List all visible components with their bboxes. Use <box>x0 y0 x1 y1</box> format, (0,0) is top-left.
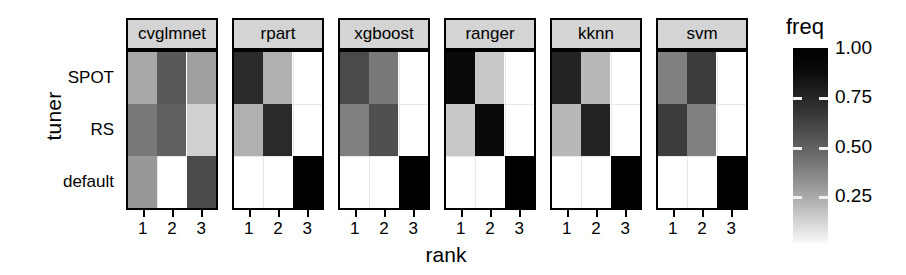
x-tick-label-2: 2 <box>584 219 608 239</box>
x-tick-label-1: 1 <box>661 219 685 239</box>
heatmap-cell <box>234 104 263 156</box>
heatmap-cell <box>475 104 504 156</box>
heatmap-cell <box>581 52 610 104</box>
legend-title: freq <box>786 14 824 40</box>
x-tick-label-2: 2 <box>478 219 502 239</box>
x-tick-label-1: 1 <box>449 219 473 239</box>
x-tick-label-2: 2 <box>372 219 396 239</box>
heatmap-cell <box>581 104 610 156</box>
facet-strip-label-ranger: ranger <box>444 18 536 50</box>
heatmap-cell <box>446 104 475 156</box>
x-tick-label-3: 3 <box>507 219 531 239</box>
plot-area-svm <box>656 50 748 210</box>
heatmap-cell <box>687 104 716 156</box>
x-tick-label-2: 2 <box>160 219 184 239</box>
x-tick-mark <box>172 210 174 217</box>
x-tick-mark <box>702 210 704 217</box>
x-tick-mark <box>567 210 569 217</box>
x-tick-label-3: 3 <box>401 219 425 239</box>
x-tick-label-3: 3 <box>613 219 637 239</box>
heatmap-cell <box>687 52 716 104</box>
legend-tick-mark <box>793 97 802 100</box>
facet-panel-svm: svm <box>656 18 748 210</box>
x-tick-label-2: 2 <box>266 219 290 239</box>
facet-strip-label-rpart: rpart <box>232 18 324 50</box>
facet-panel-xgboost: xgboost <box>338 18 430 210</box>
heatmap-figure: tuner SPOTRSdefault 123cvglmnet123rpart1… <box>0 0 906 275</box>
x-tick-mark <box>384 210 386 217</box>
x-tick-mark <box>249 210 251 217</box>
facet-panel-kknn: kknn <box>550 18 642 210</box>
x-tick-label-1: 1 <box>555 219 579 239</box>
heatmap-cell <box>611 156 640 208</box>
x-tick-mark <box>596 210 598 217</box>
heatmap-cell <box>293 156 322 208</box>
heatmap-cell <box>369 104 398 156</box>
x-tick-label-1: 1 <box>131 219 155 239</box>
x-tick-mark <box>278 210 280 217</box>
heatmap-cell <box>340 104 369 156</box>
heatmap-cell <box>340 52 369 104</box>
facet-panel-rpart: rpart <box>232 18 324 210</box>
x-tick-mark <box>355 210 357 217</box>
facet-strip-label-xgboost: xgboost <box>338 18 430 50</box>
heatmap-cell <box>128 156 157 208</box>
plot-area-kknn <box>550 50 642 210</box>
x-tick-mark <box>519 210 521 217</box>
heatmap-cell <box>128 52 157 104</box>
facet-strip-label-kknn: kknn <box>550 18 642 50</box>
legend: freq 1.000.750.500.25 <box>786 14 906 264</box>
heatmap-cell <box>187 104 216 156</box>
heatmap-cell <box>187 52 216 104</box>
heatmap-cell <box>552 104 581 156</box>
x-tick-mark <box>307 210 309 217</box>
facet-panel-ranger: ranger <box>444 18 536 210</box>
x-tick-mark <box>461 210 463 217</box>
plot-area-rpart <box>232 50 324 210</box>
heatmap-cell <box>658 104 687 156</box>
x-tick-mark <box>413 210 415 217</box>
legend-tick-label: 0.25 <box>835 185 872 207</box>
legend-tick-mark <box>819 147 828 150</box>
legend-tick-mark <box>793 147 802 150</box>
heatmap-cell <box>717 156 746 208</box>
facet-panel-row: 123cvglmnet123rpart123xgboost123ranger12… <box>126 18 748 210</box>
x-tick-mark <box>731 210 733 217</box>
heatmap-cell <box>234 52 263 104</box>
legend-tick-label: 0.50 <box>835 136 872 158</box>
heatmap-cell <box>399 156 428 208</box>
plot-area-ranger <box>444 50 536 210</box>
heatmap-cell <box>446 52 475 104</box>
facet-strip-label-cvglmnet: cvglmnet <box>126 18 218 50</box>
heatmap-cell <box>157 104 186 156</box>
x-tick-mark <box>490 210 492 217</box>
legend-tick-label: 0.75 <box>835 86 872 108</box>
x-tick-label-1: 1 <box>237 219 261 239</box>
x-tick-mark <box>673 210 675 217</box>
x-tick-mark <box>625 210 627 217</box>
x-tick-label-3: 3 <box>295 219 319 239</box>
legend-tick-mark <box>819 97 828 100</box>
heatmap-cell <box>128 104 157 156</box>
heatmap-cell <box>369 52 398 104</box>
heatmap-cell <box>552 52 581 104</box>
x-tick-mark <box>201 210 203 217</box>
heatmap-cell <box>187 156 216 208</box>
x-tick-label-3: 3 <box>189 219 213 239</box>
y-tick-label-spot: SPOT <box>68 68 114 88</box>
facet-panel-cvglmnet: cvglmnet <box>126 18 218 210</box>
y-tick-label-default: default <box>63 172 114 192</box>
heatmap-cell <box>505 156 534 208</box>
x-tick-mark <box>143 210 145 217</box>
heatmap-cell <box>263 52 292 104</box>
facet-strip-label-svm: svm <box>656 18 748 50</box>
x-tick-label-2: 2 <box>690 219 714 239</box>
heatmap-cell <box>157 52 186 104</box>
heatmap-cell <box>658 52 687 104</box>
heatmap-cell <box>263 104 292 156</box>
x-axis-title: rank <box>126 243 766 267</box>
plot-area-xgboost <box>338 50 430 210</box>
legend-tick-mark <box>819 196 828 199</box>
y-axis-ticks: SPOTRSdefault <box>36 0 114 275</box>
x-tick-label-1: 1 <box>343 219 367 239</box>
